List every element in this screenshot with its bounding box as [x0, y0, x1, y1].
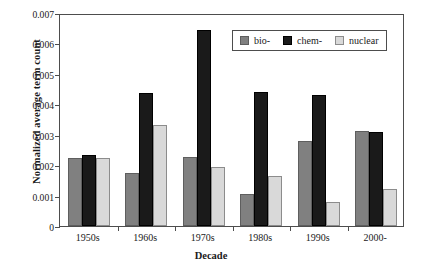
x-axis-tick-mark-line	[118, 226, 119, 231]
y-axis-tick-label: 0.006	[32, 39, 54, 51]
bar-group	[183, 15, 225, 226]
bar-nuclear-1980s	[268, 176, 282, 226]
y-axis-tick-label: 0.005	[32, 70, 54, 82]
y-axis-tick-mark	[55, 14, 60, 15]
y-axis-tick-mark	[55, 166, 60, 167]
bar-chem-1960s	[139, 93, 153, 226]
bar-chem-1970s	[197, 30, 211, 226]
y-axis-tick-mark	[55, 227, 60, 228]
x-axis-title: Decade	[0, 250, 422, 261]
y-axis-tick-mark	[55, 197, 60, 198]
bar-bio-1960s	[125, 173, 139, 226]
legend-swatch-icon	[283, 36, 292, 45]
bar-nuclear-1960s	[153, 125, 167, 226]
bar-group	[125, 15, 167, 226]
y-axis-tick-mark	[55, 75, 60, 76]
x-axis-tick-mark-line	[290, 226, 291, 231]
legend-item-label: bio-	[254, 35, 270, 46]
y-axis-tick-mark	[55, 136, 60, 137]
x-axis-category-label: 1990s	[306, 232, 330, 243]
bar-nuclear-1950s	[96, 158, 110, 226]
legend-swatch-icon	[240, 36, 249, 45]
bar-nuclear-2000	[383, 189, 397, 226]
bar-chem-1980s	[254, 92, 268, 226]
bar-bio-2000	[355, 131, 369, 226]
y-axis-tick-label: 0.003	[32, 131, 54, 143]
legend-item-label: nuclear	[349, 35, 378, 46]
legend-item-chem[interactable]: chem-	[283, 35, 322, 46]
bar-chem-1990s	[312, 95, 326, 226]
x-axis-category-label: 2000-	[364, 232, 387, 243]
legend-item-label: chem-	[297, 35, 322, 46]
y-axis-tick-label: 0.002	[32, 161, 54, 173]
y-axis-tick-label: 0.004	[32, 100, 54, 112]
legend-item-bio[interactable]: bio-	[240, 35, 270, 46]
x-axis-tick-mark-line	[348, 226, 349, 231]
x-axis-category-label: 1970s	[191, 232, 215, 243]
bar-chem-2000	[369, 132, 383, 226]
legend-swatch-icon	[335, 36, 344, 45]
x-axis-category-label: 1950s	[76, 232, 100, 243]
bar-bio-1970s	[183, 157, 197, 226]
y-axis-tick-mark	[55, 105, 60, 106]
bar-bio-1950s	[68, 158, 82, 226]
x-axis-tick-mark-line	[233, 226, 234, 231]
x-axis-category-label: 1960s	[133, 232, 157, 243]
x-axis-tick-mark-line	[175, 226, 176, 231]
bar-chart-figure: Normalized average term count 00.0010.00…	[0, 0, 422, 272]
y-axis-tick-label: 0.001	[32, 192, 54, 204]
y-axis-tick-mark	[55, 44, 60, 45]
bar-nuclear-1990s	[326, 202, 340, 226]
x-axis-category-label: 1980s	[248, 232, 272, 243]
y-axis-tick-label: 0.007	[32, 9, 54, 21]
legend-item-nuclear[interactable]: nuclear	[335, 35, 378, 46]
chart-legend: bio-chem-nuclear	[232, 30, 387, 51]
y-axis-tick-label: 0	[49, 222, 54, 234]
bar-nuclear-1970s	[211, 167, 225, 226]
bar-chem-1950s	[82, 155, 96, 226]
bar-bio-1980s	[240, 194, 254, 226]
bar-bio-1990s	[298, 141, 312, 226]
bar-group	[68, 15, 110, 226]
